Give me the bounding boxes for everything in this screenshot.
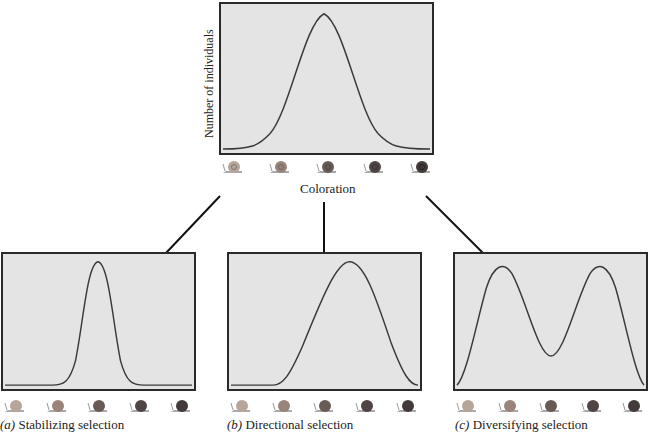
snail-row-b xyxy=(230,399,418,413)
snail-icon xyxy=(396,399,418,413)
caption-c-letter: (c) xyxy=(455,417,469,432)
snail-icon xyxy=(4,399,26,413)
snail-icon xyxy=(581,399,603,413)
original-population-chart xyxy=(219,2,434,155)
snail-icon xyxy=(498,399,520,413)
snail-icon xyxy=(46,399,68,413)
bimodal-curve xyxy=(455,254,646,389)
snail-icon xyxy=(230,399,252,413)
stabilizing-selection-chart xyxy=(1,252,196,391)
snail-icon xyxy=(129,399,151,413)
y-axis-label: Number of individuals xyxy=(202,29,217,138)
snail-icon xyxy=(410,160,432,174)
caption-c-title: Diversifying selection xyxy=(473,417,588,432)
snail-icon xyxy=(456,399,478,413)
bell-curve xyxy=(221,4,432,153)
snail-icon xyxy=(622,399,644,413)
snail-icon xyxy=(363,160,385,174)
snail-icon xyxy=(87,399,109,413)
snail-icon xyxy=(313,399,335,413)
snail-icon xyxy=(272,399,294,413)
snail-icon xyxy=(355,399,377,413)
coloration-snail-row xyxy=(222,160,432,174)
snail-icon xyxy=(269,160,291,174)
directional-selection-chart xyxy=(227,252,422,391)
snail-icon xyxy=(316,160,338,174)
caption-b-title: Directional selection xyxy=(245,417,353,432)
caption-b-letter: (b) xyxy=(227,417,242,432)
x-axis-label: Coloration xyxy=(300,181,356,197)
shifted-peak-curve xyxy=(229,254,420,389)
narrow-peak-curve xyxy=(3,254,194,389)
snail-row-a xyxy=(4,399,192,413)
diversifying-selection-chart xyxy=(453,252,648,391)
caption-a-letter: (a) xyxy=(0,417,15,432)
snail-icon xyxy=(222,160,244,174)
caption-b: (b) Directional selection xyxy=(227,417,353,433)
snail-icon xyxy=(170,399,192,413)
snail-icon xyxy=(539,399,561,413)
caption-a: (a) Stabilizing selection xyxy=(0,417,124,433)
snail-row-c xyxy=(456,399,644,413)
caption-c: (c) Diversifying selection xyxy=(455,417,588,433)
caption-a-title: Stabilizing selection xyxy=(18,417,124,432)
